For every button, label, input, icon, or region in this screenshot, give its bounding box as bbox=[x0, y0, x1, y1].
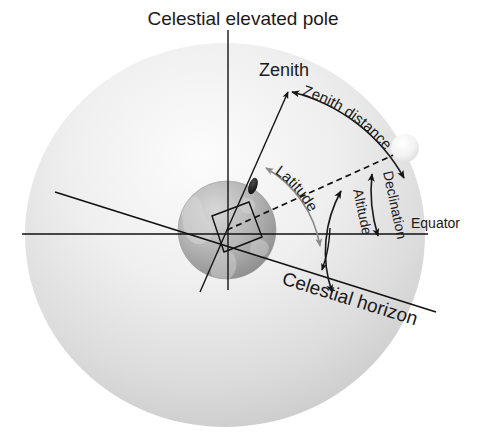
star-sphere bbox=[391, 134, 419, 162]
diagram-canvas: Celestial elevated pole Zenith Zenith di… bbox=[0, 0, 486, 439]
label-celestial-elevated-pole: Celestial elevated pole bbox=[147, 8, 338, 29]
label-zenith: Zenith bbox=[259, 60, 309, 80]
celestial-sphere-diagram: Celestial elevated pole Zenith Zenith di… bbox=[0, 0, 486, 439]
label-equator: Equator bbox=[411, 215, 460, 231]
